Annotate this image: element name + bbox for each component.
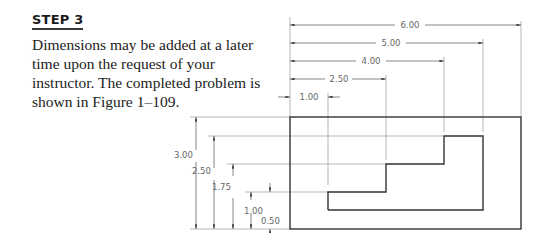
dim-label-v-1: 1.00 [244,206,263,216]
dim-label-1-75: 1.75 [212,182,231,192]
horizontal-dimension-lines [278,25,521,97]
outer-rectangle [290,117,521,229]
dimensioned-drawing: 6.00 5.00 4.00 2.50 1.00 3.00 2.50 1.75 … [0,0,541,233]
dim-label-v-2-50: 2.50 [192,166,211,176]
vertical-dimension-labels: 3.00 2.50 1.75 1.00 0.50 [174,150,280,226]
extension-lines-horizontal [290,17,521,185]
dim-label-4: 4.00 [362,56,381,66]
dim-label-2-50: 2.50 [330,74,349,84]
extension-lines-vertical [190,117,444,229]
dim-label-6: 6.00 [401,20,420,30]
dim-label-5: 5.00 [382,38,401,48]
dim-label-3: 3.00 [174,150,193,160]
stepped-profile [328,136,483,210]
dim-label-1: 1.00 [300,92,319,102]
dim-label-0-50: 0.50 [261,216,280,226]
